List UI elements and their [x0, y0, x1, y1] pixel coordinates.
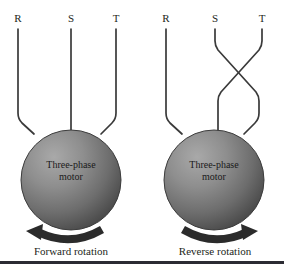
- phase-label-reverse-R: R: [159, 12, 173, 24]
- phase-label-forward-S: S: [64, 12, 78, 24]
- panel-forward: [18, 29, 121, 243]
- phase-label-forward-R: R: [11, 12, 25, 24]
- wire-forward-T: [101, 29, 116, 134]
- motor-label-reverse-line1: Three-phase: [164, 159, 264, 171]
- wire-reverse-T-crossed: [218, 29, 262, 131]
- panel-reverse: [164, 29, 264, 243]
- bottom-divider: [0, 261, 284, 264]
- motor-label-forward-line2: motor: [21, 171, 121, 183]
- phase-label-forward-T: T: [109, 12, 123, 24]
- motor-label-reverse-line2: motor: [164, 171, 264, 183]
- wire-reverse-R: [166, 29, 182, 134]
- wire-forward-R: [18, 29, 34, 134]
- phase-label-reverse-S: S: [208, 12, 222, 24]
- caption-reverse: Reverse rotation: [155, 245, 275, 258]
- caption-forward: Forward rotation: [11, 245, 131, 258]
- motor-rotation-figure: [0, 0, 284, 270]
- phase-label-reverse-T: T: [255, 12, 269, 24]
- wire-reverse-S-crossed: [215, 29, 259, 134]
- motor-label-forward-line1: Three-phase: [21, 159, 121, 171]
